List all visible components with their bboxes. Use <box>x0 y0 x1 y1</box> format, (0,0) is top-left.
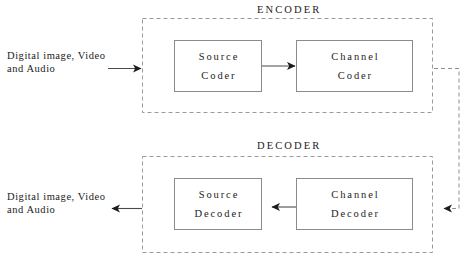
input-label: Digital image, Video and Audio <box>7 49 106 75</box>
connector-channel-path <box>434 69 459 209</box>
block-label-line1: Source <box>197 185 239 204</box>
block-label-line2: Coder <box>336 66 373 85</box>
block-label-line1: Channel <box>329 185 379 204</box>
block-label-line2: Coder <box>199 66 236 85</box>
block-channel-decoder[interactable]: Channel Decoder <box>296 178 413 230</box>
encoder-group-title: ENCODER <box>257 4 321 15</box>
block-label-line1: Source <box>197 47 239 66</box>
block-channel-coder[interactable]: Channel Coder <box>296 40 413 92</box>
block-label-line2: Decoder <box>193 204 244 223</box>
block-label-line2: Decoder <box>329 204 380 223</box>
output-label: Digital image, Video and Audio <box>7 190 106 216</box>
block-source-decoder[interactable]: Source Decoder <box>174 178 262 230</box>
block-diagram: ENCODER DECODER Digital image, Video and… <box>0 0 472 266</box>
decoder-group-title: DECODER <box>257 140 321 151</box>
block-label-line1: Channel <box>329 47 379 66</box>
block-source-coder[interactable]: Source Coder <box>174 40 262 92</box>
